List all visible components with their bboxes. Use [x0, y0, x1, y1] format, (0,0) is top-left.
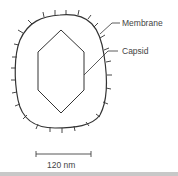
- membrane-spikes: [11, 10, 112, 133]
- capsid-hexagon: [38, 30, 84, 113]
- bottom-divider: [0, 172, 178, 176]
- membrane-label: Membrane: [122, 18, 163, 28]
- capsid-leader-line: [84, 51, 118, 75]
- virus-diagram: Membrane Capsid 120 nm: [0, 0, 178, 176]
- membrane-outline: [15, 15, 106, 128]
- capsid-label: Capsid: [122, 46, 148, 56]
- scale-bar: [36, 151, 91, 157]
- scale-label: 120 nm: [47, 160, 75, 170]
- membrane-leader-line: [100, 23, 120, 34]
